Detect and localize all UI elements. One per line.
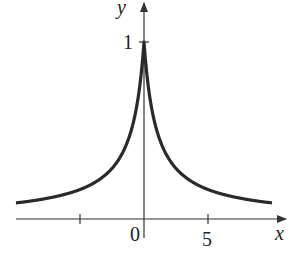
y-axis-label: y <box>115 0 126 19</box>
x-axis-label: x <box>274 222 284 244</box>
chart-canvas: y 1 0 5 x <box>0 0 297 253</box>
x-tick-label-5: 5 <box>202 228 212 250</box>
origin-label: 0 <box>130 223 140 245</box>
y-tick-label-1: 1 <box>123 31 133 53</box>
